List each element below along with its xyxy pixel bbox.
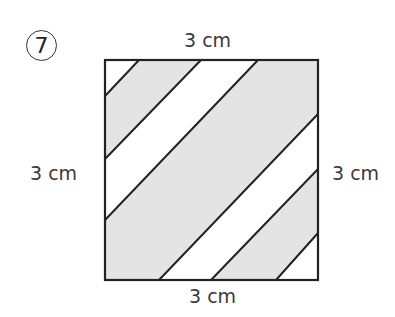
label-top-side: 3 cm — [184, 31, 231, 50]
geometry-figure: 7 3 cm 3 cm 3 cm 3 cm — [0, 0, 395, 317]
label-right-side: 3 cm — [332, 164, 379, 183]
label-left-side: 3 cm — [30, 164, 77, 183]
label-bottom-side: 3 cm — [189, 287, 236, 306]
